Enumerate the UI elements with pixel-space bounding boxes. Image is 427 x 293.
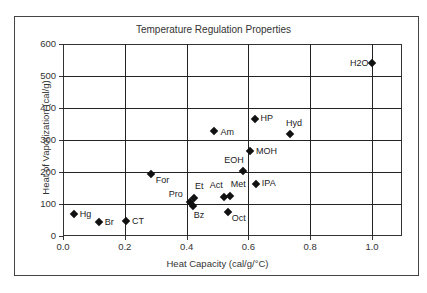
point-label: Pro bbox=[169, 189, 183, 199]
point-label: CT bbox=[132, 216, 144, 226]
y-tick-mark bbox=[59, 236, 63, 237]
point-label: For bbox=[156, 175, 170, 185]
y-tick-label: 200 bbox=[26, 166, 56, 177]
point-label: Hg bbox=[80, 209, 92, 219]
point-label: Am bbox=[220, 127, 234, 137]
point-label: Br bbox=[105, 217, 114, 227]
x-tick-label: 0.4 bbox=[172, 241, 202, 252]
x-tick-label: 0.8 bbox=[295, 241, 325, 252]
y-tick-label: 100 bbox=[26, 198, 56, 209]
x-tick-label: 0.0 bbox=[48, 241, 78, 252]
y-tick-mark bbox=[59, 204, 63, 205]
y-tick-mark bbox=[59, 44, 63, 45]
x-tick-mark bbox=[125, 236, 126, 240]
point-label: Et bbox=[195, 181, 204, 191]
point-label: H2O bbox=[350, 58, 369, 68]
gridline-horizontal bbox=[63, 172, 402, 173]
point-label: Bz bbox=[194, 210, 205, 220]
point-label: EOH bbox=[224, 155, 244, 165]
x-tick-label: 0.2 bbox=[110, 241, 140, 252]
y-tick-label: 500 bbox=[26, 70, 56, 81]
point-label: Act bbox=[210, 180, 223, 190]
point-label: Oct bbox=[232, 213, 246, 223]
gridline-horizontal bbox=[63, 108, 402, 109]
y-tick-mark bbox=[59, 76, 63, 77]
gridline-horizontal bbox=[63, 204, 402, 205]
x-tick-mark bbox=[63, 236, 64, 240]
y-tick-label: 300 bbox=[26, 134, 56, 145]
point-label: HP bbox=[261, 113, 274, 123]
point-label: Met bbox=[231, 179, 246, 189]
gridline-horizontal bbox=[63, 140, 402, 141]
x-tick-mark bbox=[310, 236, 311, 240]
x-tick-label: 0.6 bbox=[233, 241, 263, 252]
y-tick-mark bbox=[59, 172, 63, 173]
y-tick-label: 400 bbox=[26, 102, 56, 113]
y-tick-label: 600 bbox=[26, 38, 56, 49]
chart-title: Temperature Regulation Properties bbox=[0, 24, 427, 35]
y-tick-mark bbox=[59, 140, 63, 141]
y-tick-label: 0 bbox=[26, 230, 56, 241]
x-tick-mark bbox=[187, 236, 188, 240]
gridline-horizontal bbox=[63, 76, 402, 77]
point-label: Hyd bbox=[286, 118, 302, 128]
point-label: IPA bbox=[262, 178, 276, 188]
y-tick-mark bbox=[59, 108, 63, 109]
x-tick-mark bbox=[372, 236, 373, 240]
point-label: MOH bbox=[256, 146, 277, 156]
x-tick-label: 1.0 bbox=[357, 241, 387, 252]
x-axis-label: Heat Capacity (cal/g/°C) bbox=[63, 258, 372, 269]
x-tick-mark bbox=[248, 236, 249, 240]
